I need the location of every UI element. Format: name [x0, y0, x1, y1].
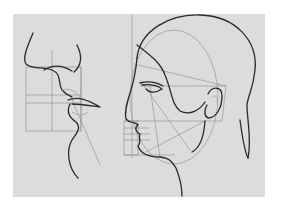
profile-drawing — [0, 0, 281, 204]
nose-lips-study — [25, 33, 100, 178]
head-profile-study — [124, 15, 255, 196]
nose-outline — [25, 33, 72, 97]
ear — [205, 88, 222, 118]
